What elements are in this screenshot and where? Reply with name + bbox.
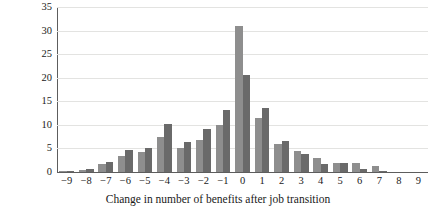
bar (164, 124, 171, 172)
bar (118, 156, 125, 173)
bar (313, 158, 320, 172)
bar-group (174, 7, 194, 172)
bar (360, 169, 367, 172)
bar (262, 108, 269, 172)
bar-group (213, 7, 233, 172)
axis-baseline (57, 172, 428, 173)
bar (379, 171, 386, 172)
bar-group (350, 7, 370, 172)
bar (255, 118, 262, 172)
bar (216, 125, 223, 172)
y-tick-label: 10 (4, 120, 52, 130)
x-tick-label: 5 (330, 174, 350, 190)
bar-group (409, 7, 429, 172)
bar (223, 110, 230, 172)
x-tick-label: −2 (194, 174, 214, 190)
bar (321, 164, 328, 172)
bar-group (272, 7, 292, 172)
y-tick-label: 0 (4, 167, 52, 177)
bar-group (155, 7, 175, 172)
bar-group (389, 7, 409, 172)
bar (138, 152, 145, 172)
y-tick-label: 5 (4, 143, 52, 153)
bar (98, 164, 105, 172)
y-tick-label: 35 (4, 2, 52, 12)
y-axis-tick-labels: 35302520151050 (0, 7, 52, 172)
x-tick-label: −1 (213, 174, 233, 190)
x-tick-label: 8 (389, 174, 409, 190)
bar (235, 26, 242, 172)
bar-group (135, 7, 155, 172)
bar-series-container (57, 7, 428, 172)
bar (301, 154, 308, 172)
x-tick-label: −9 (57, 174, 77, 190)
bar-group (330, 7, 350, 172)
x-tick-label: −6 (116, 174, 136, 190)
bar (79, 170, 86, 172)
x-axis-tick-labels: −9−8−7−6−5−4−3−2−10123456789 (57, 174, 428, 190)
x-tick-label: −7 (96, 174, 116, 190)
x-tick-label: −8 (77, 174, 97, 190)
bar-group (291, 7, 311, 172)
bar (372, 166, 379, 172)
y-tick-label: 20 (4, 73, 52, 83)
plot-area (57, 7, 428, 172)
bar-group (252, 7, 272, 172)
bar-group (311, 7, 331, 172)
x-tick-label: −5 (135, 174, 155, 190)
bar-group (57, 7, 77, 172)
bar (145, 148, 152, 173)
x-axis-title: Change in number of benefits after job t… (0, 192, 436, 206)
x-tick-label: 1 (252, 174, 272, 190)
bar (184, 142, 191, 172)
bar (294, 151, 301, 172)
bar (106, 162, 113, 172)
bar (274, 144, 281, 172)
bar (125, 150, 132, 172)
y-tick-label: 25 (4, 49, 52, 59)
bar (333, 163, 340, 172)
y-tick-label: 30 (4, 26, 52, 36)
bar (203, 129, 210, 172)
bar-group (116, 7, 136, 172)
x-tick-label: 6 (350, 174, 370, 190)
y-tick-label: 15 (4, 96, 52, 106)
bar (340, 163, 347, 172)
bar-group (96, 7, 116, 172)
bar (243, 75, 250, 172)
bar (59, 171, 66, 172)
bar-group (370, 7, 390, 172)
bar (196, 140, 203, 172)
x-tick-label: 4 (311, 174, 331, 190)
bar (282, 141, 289, 172)
bar (67, 171, 74, 172)
bar (352, 163, 359, 172)
x-tick-label: 0 (233, 174, 253, 190)
x-tick-label: 3 (291, 174, 311, 190)
bar-group (233, 7, 253, 172)
bar-group (77, 7, 97, 172)
x-tick-label: −4 (155, 174, 175, 190)
x-tick-label: 7 (370, 174, 390, 190)
x-tick-label: −3 (174, 174, 194, 190)
bar-group (194, 7, 214, 172)
bar (86, 169, 93, 172)
bar (157, 137, 164, 172)
x-tick-label: 9 (409, 174, 429, 190)
bar (177, 148, 184, 172)
histogram-figure: 35302520151050 −9−8−7−6−5−4−3−2−10123456… (0, 0, 436, 215)
x-tick-label: 2 (272, 174, 292, 190)
